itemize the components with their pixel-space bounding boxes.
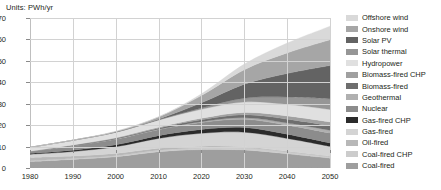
stacked-areas <box>30 18 330 168</box>
legend-item[interactable]: Hydropower <box>346 58 441 69</box>
legend-swatch <box>346 83 358 89</box>
x-axis-tick-mark <box>201 150 202 153</box>
legend-swatch <box>346 163 358 169</box>
gridline-horizontal <box>30 125 330 126</box>
legend-label: Biomass-fired CHP <box>362 70 426 79</box>
legend-item[interactable]: Gas-fired CHP <box>346 115 441 126</box>
x-axis-tick-label: 2040 <box>267 172 307 181</box>
gridline-vertical <box>244 18 245 168</box>
legend-swatch <box>346 151 358 157</box>
legend-swatch <box>346 129 358 135</box>
legend-swatch <box>346 26 358 32</box>
legend-item[interactable]: Onshore wind <box>346 23 441 34</box>
legend-item[interactable]: Solar thermal <box>346 46 441 57</box>
x-axis-tick-mark <box>73 150 74 153</box>
x-axis-tick-mark <box>116 150 117 153</box>
y-axis-tick-label: 40 <box>0 78 6 87</box>
gridline-vertical <box>287 18 288 168</box>
chart-area: 0102030405060701980199020002010202020302… <box>0 0 340 190</box>
y-axis-tick-mark <box>26 104 30 105</box>
x-axis-tick-mark <box>30 150 31 153</box>
legend-item[interactable]: Biomass-fired <box>346 80 441 91</box>
legend-swatch <box>346 106 358 112</box>
x-axis-tick-label: 2020 <box>181 172 221 181</box>
legend-label: Geothermal <box>362 93 401 102</box>
y-axis-tick-label: 60 <box>0 35 6 44</box>
y-axis-tick-label: 30 <box>0 99 6 108</box>
chart-screenshot: Units: PWh/yr 01020304050607019801990200… <box>0 0 441 190</box>
gridline-vertical <box>73 18 74 168</box>
legend-label: Coal-fired CHP <box>362 150 412 159</box>
x-axis-tick-mark <box>244 150 245 153</box>
gridline-horizontal <box>30 18 330 19</box>
x-axis-tick-label: 2000 <box>96 172 136 181</box>
y-axis-tick-mark <box>26 18 30 19</box>
x-axis-tick-mark <box>330 150 331 153</box>
legend-item[interactable]: Oil-fired <box>346 137 441 148</box>
y-axis-tick-label: 50 <box>0 56 6 65</box>
legend-swatch <box>346 94 358 100</box>
gridline-horizontal <box>30 61 330 62</box>
x-axis-tick-mark <box>287 150 288 153</box>
legend-item[interactable]: Biomass-fired CHP <box>346 69 441 80</box>
legend-item[interactable]: Gas-fired <box>346 126 441 137</box>
x-axis-tick-label: 2010 <box>139 172 179 181</box>
legend-item[interactable]: Offshore wind <box>346 12 441 23</box>
legend-item[interactable]: Nuclear <box>346 103 441 114</box>
legend-label: Gas-fired <box>362 127 393 136</box>
gridline-vertical <box>116 18 117 168</box>
legend-item[interactable]: Coal-fired <box>346 160 441 171</box>
legend-label: Hydropower <box>362 59 402 68</box>
y-axis-tick-label: 70 <box>0 14 6 23</box>
gridline-vertical <box>330 18 331 168</box>
legend-swatch <box>346 140 358 146</box>
gridline-horizontal <box>30 104 330 105</box>
legend-item[interactable]: Solar PV <box>346 35 441 46</box>
x-axis-tick-label: 2030 <box>224 172 264 181</box>
legend-swatch <box>346 37 358 43</box>
legend-label: Onshore wind <box>362 25 408 34</box>
y-axis-tick-mark <box>26 147 30 148</box>
y-axis-tick-mark <box>26 82 30 83</box>
legend-item[interactable]: Coal-fired CHP <box>346 149 441 160</box>
legend-swatch <box>346 72 358 78</box>
x-axis-tick-label: 1980 <box>10 172 50 181</box>
y-axis-tick-label: 0 <box>0 164 6 173</box>
gridline-vertical <box>159 18 160 168</box>
legend-swatch <box>346 60 358 66</box>
legend-label: Coal-fired <box>362 161 395 170</box>
legend-swatch <box>346 49 358 55</box>
chart-legend: Offshore windOnshore windSolar PVSolar t… <box>346 12 441 171</box>
legend-swatch <box>346 117 358 123</box>
legend-item[interactable]: Geothermal <box>346 92 441 103</box>
legend-label: Biomass-fired <box>362 82 408 91</box>
legend-label: Nuclear <box>362 104 388 113</box>
y-axis-tick-mark <box>26 125 30 126</box>
legend-label: Gas-fired CHP <box>362 116 411 125</box>
legend-label: Solar PV <box>362 36 392 45</box>
gridline-horizontal <box>30 147 330 148</box>
y-axis-tick-mark <box>26 61 30 62</box>
plot-region <box>30 18 330 168</box>
gridline-horizontal <box>30 82 330 83</box>
x-axis-tick-mark <box>159 150 160 153</box>
legend-label: Oil-fired <box>362 138 388 147</box>
y-axis-tick-mark <box>26 39 30 40</box>
stacked-area-svg <box>30 18 330 168</box>
legend-swatch <box>346 15 358 21</box>
y-axis-tick-label: 20 <box>0 121 6 130</box>
x-axis-tick-label: 2050 <box>310 172 350 181</box>
y-axis-tick-label: 10 <box>0 142 6 151</box>
legend-label: Solar thermal <box>362 47 407 56</box>
gridline-vertical <box>201 18 202 168</box>
x-axis-tick-label: 1990 <box>53 172 93 181</box>
y-axis-tick-mark <box>26 168 30 169</box>
gridline-horizontal <box>30 39 330 40</box>
legend-label: Offshore wind <box>362 13 408 22</box>
